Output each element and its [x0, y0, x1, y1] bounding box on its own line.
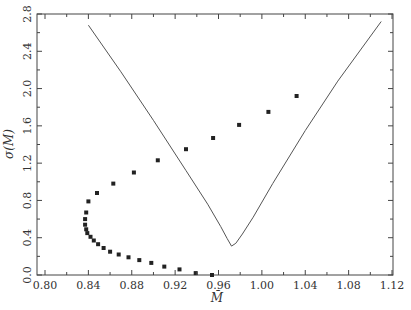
data-point [295, 94, 299, 98]
plot-area [37, 14, 393, 277]
y-tick-label: 0.0 [21, 266, 34, 284]
data-point [85, 231, 89, 235]
data-point [266, 110, 270, 114]
y-tick-label: 1.2 [21, 154, 34, 172]
y-tick-label: 0.4 [21, 229, 34, 247]
x-tick-label: 1.04 [293, 279, 318, 292]
data-point [210, 273, 214, 277]
curve-line [88, 22, 381, 247]
data-point [178, 267, 182, 271]
x-tick-label: 1.00 [250, 279, 275, 292]
data-point [84, 227, 88, 231]
data-point [162, 265, 166, 269]
x-tick-label: 1.12 [380, 279, 405, 292]
data-point [127, 255, 131, 259]
x-tick-label: 0.88 [120, 279, 145, 292]
x-tick-label: 1.08 [336, 279, 361, 292]
data-point [95, 191, 99, 195]
data-point [149, 261, 153, 265]
data-point [89, 235, 93, 239]
data-point [102, 246, 106, 250]
chart: 0.800.840.880.920.961.001.041.081.12 0.0… [0, 0, 411, 310]
data-point [111, 182, 115, 186]
data-point [83, 223, 87, 227]
data-point [184, 147, 188, 151]
data-point [211, 136, 215, 140]
data-point [83, 217, 87, 221]
data-point [237, 123, 241, 127]
y-tick-label: 2.8 [21, 5, 34, 23]
y-tick-label: 2.0 [21, 80, 34, 98]
data-point [92, 239, 96, 243]
data-point [84, 211, 88, 215]
data-point [137, 258, 141, 262]
data-point [156, 158, 160, 162]
y-axis-label: σ(M) [2, 129, 16, 159]
y-tick-label: 1.6 [21, 117, 34, 135]
data-point [86, 199, 90, 203]
x-tick-label: 0.92 [163, 279, 188, 292]
data-point [132, 171, 136, 175]
y-axis: 0.00.40.81.21.62.02.42.8 [21, 5, 393, 284]
x-tick-label: 0.84 [76, 279, 101, 292]
x-axis-label: M̄ [210, 290, 224, 305]
x-tick-label: 0.80 [33, 279, 58, 292]
data-point [96, 242, 100, 246]
x-axis: 0.800.840.880.920.961.001.041.081.12 [33, 14, 405, 292]
data-point [108, 250, 112, 254]
y-tick-label: 0.8 [21, 192, 34, 210]
y-tick-label: 2.4 [21, 43, 34, 61]
data-point [117, 253, 121, 257]
